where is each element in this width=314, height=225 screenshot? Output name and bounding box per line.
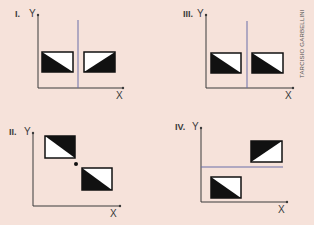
panel-label-iv: IV. (175, 123, 185, 132)
diagram-canvas (0, 0, 314, 225)
box-right (84, 52, 115, 72)
axis-arrow-icon (200, 127, 202, 129)
center-point (74, 162, 78, 166)
x-axis-label: X (110, 209, 117, 219)
y-axis-label: Y (24, 127, 31, 137)
box-lower (82, 168, 112, 190)
axis-arrow-icon (205, 14, 207, 16)
axis-arrow-icon (286, 201, 288, 203)
y-axis-label: Y (192, 122, 199, 132)
panel-ii (32, 132, 121, 207)
axis-arrow-icon (119, 205, 121, 207)
panel-label-ii: II. (9, 128, 17, 137)
y-axis-label: Y (29, 9, 36, 19)
x-axis-label: X (285, 91, 292, 101)
panel-i (37, 14, 124, 89)
axis-arrow-icon (122, 87, 124, 89)
box-left (42, 52, 73, 72)
x-axis-label: X (116, 91, 123, 101)
panel-iv (200, 127, 288, 203)
panel-iii (205, 14, 294, 89)
box-upper (251, 141, 282, 162)
box-lower (211, 177, 241, 198)
photo-credit: TARCISIO GARBELLINI (299, 9, 305, 78)
y-axis-label: Y (197, 9, 204, 19)
x-axis-label: X (278, 205, 285, 215)
axis-arrow-icon (292, 87, 294, 89)
panel-label-iii: III. (183, 10, 193, 19)
box-left (211, 53, 241, 73)
panel-label-i: I. (15, 10, 20, 19)
box-upper (45, 136, 75, 158)
box-right (252, 53, 283, 73)
axis-arrow-icon (32, 132, 34, 134)
axis-arrow-icon (37, 14, 39, 16)
